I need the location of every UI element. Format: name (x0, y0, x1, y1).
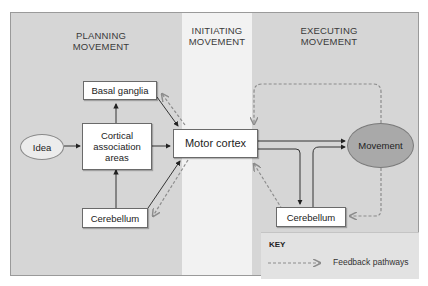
node-cerebellum-left-label: Cerebellum (91, 213, 140, 224)
node-idea-label: Idea (33, 142, 52, 153)
feedback-movement-to-motor (254, 84, 381, 124)
node-motor-cortex-label: Motor cortex (185, 138, 246, 149)
feedback-movement-to-cerebellum-right (350, 168, 381, 216)
node-cerebellum-left: Cerebellum (82, 208, 148, 228)
cortical-line1: Cortical (101, 130, 133, 141)
arrow-cerebellum-to-movement (313, 147, 345, 208)
node-idea: Idea (20, 134, 64, 160)
node-cortical-association: Cortical association areas (82, 123, 152, 170)
node-basal-ganglia: Basal ganglia (83, 81, 157, 100)
arrow-motor-to-cerebellum-right (258, 149, 300, 204)
cortical-line2: association (93, 141, 141, 152)
node-motor-cortex: Motor cortex (173, 129, 258, 158)
node-cerebellum-right-label: Cerebellum (287, 212, 336, 223)
node-movement-label: Movement (358, 140, 402, 151)
node-movement: Movement (347, 123, 414, 168)
feedback-cerebellum-right-to-motor (254, 164, 282, 209)
cortical-line3: areas (105, 152, 129, 163)
feedback-motor-to-cerebellum-left (153, 160, 188, 216)
node-cerebellum-right: Cerebellum (276, 207, 346, 227)
node-basal-ganglia-label: Basal ganglia (91, 85, 148, 96)
